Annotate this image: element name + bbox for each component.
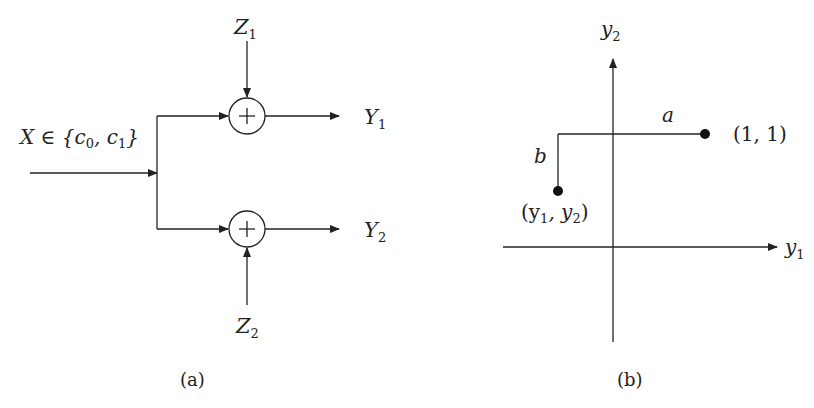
label-point-one-one: (1, 1) [733,122,787,146]
point-y1-y2 [553,186,563,196]
label-distance-a: a [662,103,674,127]
label-y1-axis: y1 [784,235,805,262]
label-input-x: X ∈ {c0, c1} [18,125,139,151]
label-distance-b: b [534,144,547,168]
diagram-canvas: Z1 Z2 Y1 Y2 X ∈ {c0, c1} (a) y2 y1 a b (… [0,0,814,408]
label-y1: Y1 [364,105,386,132]
caption-b: (b) [617,369,643,390]
label-z2: Z2 [235,314,259,341]
caption-a: (a) [180,369,205,390]
point-one-one [700,129,710,139]
label-y2-axis: y2 [600,17,621,44]
label-z1: Z1 [233,15,257,42]
label-y2: Y2 [364,218,386,245]
panel-b-signal-space [503,59,777,342]
label-point-y: (y1, y2) [521,200,589,226]
panel-a-channel-diagram [30,41,339,305]
